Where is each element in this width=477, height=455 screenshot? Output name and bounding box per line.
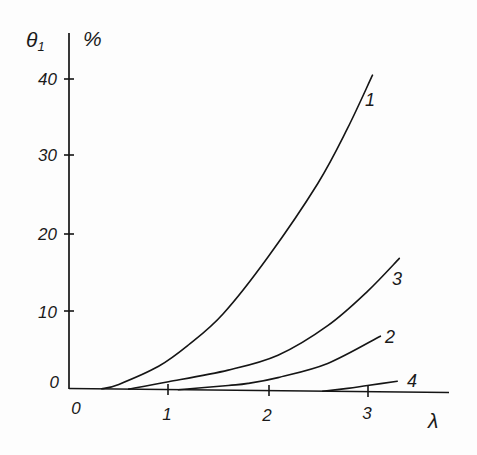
y-axis-label-subscript: 1: [37, 39, 44, 54]
y-tick-label-10: 10: [38, 303, 57, 322]
curve-2: [178, 336, 380, 390]
curves-group: [102, 75, 400, 391]
y-axis-unit: %: [83, 27, 102, 50]
y-tick-label-40: 40: [38, 70, 57, 89]
curve-1: [102, 75, 373, 389]
x-tick-label-3: 3: [362, 404, 372, 423]
x-axis: [69, 389, 449, 393]
x-axis-label: λ: [427, 409, 438, 432]
y-tick-label-0: 0: [50, 373, 60, 392]
line-chart: θ1 % λ 40 30 20 10 0 0 1 2 3: [0, 0, 477, 455]
curve-4: [323, 381, 398, 391]
curve-label-1: 1: [365, 90, 375, 110]
y-axis-label: θ1: [26, 28, 45, 54]
curve-label-3: 3: [392, 269, 402, 289]
curve-3: [129, 258, 400, 389]
y-tick-label-20: 20: [37, 225, 57, 244]
x-tick-label-0: 0: [71, 399, 81, 418]
curve-label-4: 4: [407, 371, 417, 391]
figure: θ1 % λ 40 30 20 10 0 0 1 2 3: [0, 0, 477, 455]
x-tick-label-1: 1: [162, 405, 171, 424]
x-tick-label-2: 2: [261, 406, 272, 425]
y-tick-label-30: 30: [38, 146, 57, 165]
curve-label-2: 2: [384, 327, 395, 347]
